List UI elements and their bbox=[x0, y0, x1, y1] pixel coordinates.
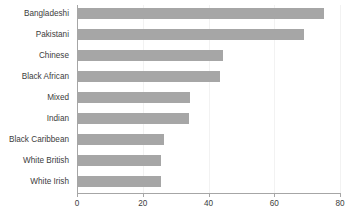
y-axis-line bbox=[77, 5, 78, 194]
x-tick-label-0: 0 bbox=[75, 199, 80, 208]
y-tick-label-mixed: Mixed bbox=[47, 92, 69, 103]
y-tick-label-pakistani: Pakistani bbox=[36, 29, 69, 40]
gridline-80 bbox=[340, 5, 341, 193]
x-tick-label-40: 40 bbox=[204, 199, 213, 208]
bar-chinese bbox=[77, 50, 223, 61]
x-tick-mark-60 bbox=[274, 193, 275, 197]
x-tick-mark-20 bbox=[143, 193, 144, 197]
y-tick-label-bangladeshi: Bangladeshi bbox=[24, 8, 69, 19]
bar-black-african bbox=[77, 71, 220, 82]
bar-indian bbox=[77, 113, 189, 124]
y-tick-label-indian: Indian bbox=[47, 113, 69, 124]
bar-white-irish bbox=[77, 176, 161, 187]
x-tick-label-80: 80 bbox=[335, 199, 344, 208]
plot-area bbox=[77, 5, 340, 193]
x-tick-label-60: 60 bbox=[270, 199, 279, 208]
bar-bangladeshi bbox=[77, 8, 324, 19]
bar-mixed bbox=[77, 92, 190, 103]
y-axis-labels: Bangladeshi Pakistani Chinese Black Afri… bbox=[0, 5, 73, 193]
y-tick-label-white-irish: White Irish bbox=[30, 176, 69, 187]
x-tick-label-20: 20 bbox=[138, 199, 147, 208]
y-tick-label-black-african: Black African bbox=[22, 71, 69, 82]
bar-white-british bbox=[77, 155, 161, 166]
bar-black-caribbean bbox=[77, 134, 164, 145]
x-tick-mark-40 bbox=[209, 193, 210, 197]
horizontal-bar-chart: Bangladeshi Pakistani Chinese Black Afri… bbox=[0, 0, 352, 216]
x-tick-mark-80 bbox=[340, 193, 341, 197]
x-tick-mark-0 bbox=[77, 193, 78, 197]
y-tick-label-black-caribbean: Black Caribbean bbox=[9, 134, 69, 145]
bar-pakistani bbox=[77, 29, 304, 40]
y-tick-label-white-british: White British bbox=[23, 155, 69, 166]
y-tick-label-chinese: Chinese bbox=[39, 50, 69, 61]
